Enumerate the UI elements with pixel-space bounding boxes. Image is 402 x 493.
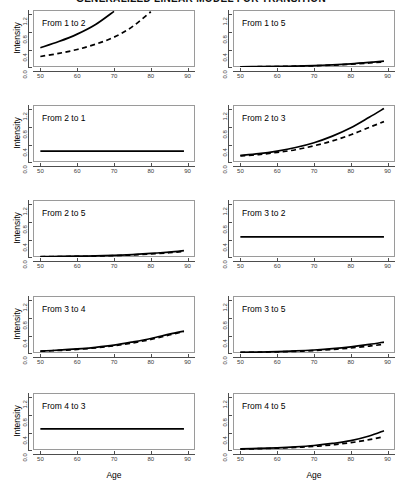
y-tick xyxy=(28,240,32,241)
x-tick xyxy=(114,68,115,72)
x-tick-label: 60 xyxy=(74,359,81,365)
y-tick-label: 1.2 xyxy=(222,113,228,121)
x-tick xyxy=(314,163,315,167)
y-tick-label: 0.0 xyxy=(222,165,228,173)
y-tick xyxy=(228,415,232,416)
x-tick-label: 90 xyxy=(184,263,191,269)
y-tick-label: 0.0 xyxy=(222,356,228,364)
x-tick-label: 50 xyxy=(37,168,44,174)
y-tick xyxy=(228,109,232,110)
x-tick xyxy=(151,163,152,167)
x-tick-label: 80 xyxy=(147,359,154,365)
y-tick-label: 0.0 xyxy=(22,260,28,268)
x-tick-label: 70 xyxy=(111,263,118,269)
x-tick-label: 60 xyxy=(274,263,281,269)
curves xyxy=(33,296,195,353)
x-tick xyxy=(351,451,352,455)
x-tick-label: 60 xyxy=(274,359,281,365)
y-tick xyxy=(228,300,232,301)
y-tick xyxy=(28,204,32,205)
y-tick-label: 1.2 xyxy=(222,304,228,312)
x-tick xyxy=(114,258,115,262)
x-tick xyxy=(151,258,152,262)
x-axis-title: Age xyxy=(106,470,121,480)
x-tick-label: 70 xyxy=(311,263,318,269)
x-tick-label: 80 xyxy=(147,168,154,174)
x-tick xyxy=(240,451,241,455)
x-tick-label: 50 xyxy=(237,168,244,174)
y-tick-label: 0.0 xyxy=(22,356,28,364)
x-tick-label: 90 xyxy=(184,168,191,174)
x-tick xyxy=(151,354,152,358)
x-tick xyxy=(314,354,315,358)
y-tick-label: 0.8 xyxy=(22,418,28,426)
curves xyxy=(233,105,395,162)
x-tick-label: 90 xyxy=(384,263,391,269)
y-tick-label: 0.4 xyxy=(22,339,28,347)
y-tick-label: 0.8 xyxy=(22,225,28,233)
x-tick-label: 50 xyxy=(237,263,244,269)
y-tick-label: 1.2 xyxy=(222,18,228,26)
y-tick-label: 1.2 xyxy=(22,208,28,216)
curves xyxy=(233,200,395,257)
x-tick-label: 60 xyxy=(274,73,281,79)
x-tick xyxy=(240,68,241,72)
x-tick-label: 70 xyxy=(111,73,118,79)
y-tick xyxy=(228,145,232,146)
figure-canvas: GENERALIZED LINEAR MODEL FOR TRANSITION … xyxy=(0,0,402,493)
x-tick xyxy=(40,68,41,72)
x-tick xyxy=(240,258,241,262)
y-tick xyxy=(228,162,232,163)
x-tick-label: 50 xyxy=(37,73,44,79)
x-tick xyxy=(77,451,78,455)
y-tick-label: 0.0 xyxy=(22,165,28,173)
x-tick-label: 70 xyxy=(111,168,118,174)
curves xyxy=(33,105,195,162)
y-tick xyxy=(228,336,232,337)
y-tick xyxy=(28,127,32,128)
x-tick-label: 50 xyxy=(37,456,44,462)
y-tick xyxy=(228,450,232,451)
x-tick xyxy=(114,451,115,455)
y-tick xyxy=(228,14,232,15)
y-tick xyxy=(228,204,232,205)
x-tick xyxy=(388,258,389,262)
y-tick xyxy=(28,336,32,337)
y-tick xyxy=(28,222,32,223)
x-axis-title: Age xyxy=(306,470,321,480)
y-tick xyxy=(228,433,232,434)
x-tick-label: 60 xyxy=(74,73,81,79)
x-tick xyxy=(351,163,352,167)
x-tick xyxy=(277,68,278,72)
y-tick xyxy=(28,397,32,398)
x-tick xyxy=(188,354,189,358)
x-tick xyxy=(40,354,41,358)
x-tick xyxy=(188,68,189,72)
x-tick xyxy=(351,68,352,72)
y-tick-label: 0.8 xyxy=(22,321,28,329)
x-tick xyxy=(388,163,389,167)
x-tick-label: 80 xyxy=(147,73,154,79)
y-tick-label: 0.8 xyxy=(222,225,228,233)
y-tick-label: 0.4 xyxy=(222,243,228,251)
x-tick xyxy=(77,163,78,167)
y-tick-label: 0.8 xyxy=(222,35,228,43)
y-tick xyxy=(28,353,32,354)
x-tick xyxy=(388,68,389,72)
y-tick xyxy=(28,433,32,434)
y-tick-label: 1.2 xyxy=(22,304,28,312)
x-tick-label: 60 xyxy=(74,456,81,462)
x-tick xyxy=(388,451,389,455)
x-tick-label: 80 xyxy=(147,456,154,462)
y-tick-label: 0.8 xyxy=(222,130,228,138)
x-tick-label: 50 xyxy=(237,456,244,462)
x-tick xyxy=(388,354,389,358)
x-tick xyxy=(40,258,41,262)
x-tick-label: 50 xyxy=(37,263,44,269)
curves xyxy=(233,296,395,353)
y-tick xyxy=(28,145,32,146)
curves xyxy=(33,393,195,450)
x-tick-label: 50 xyxy=(37,359,44,365)
y-tick xyxy=(228,222,232,223)
y-tick xyxy=(228,353,232,354)
